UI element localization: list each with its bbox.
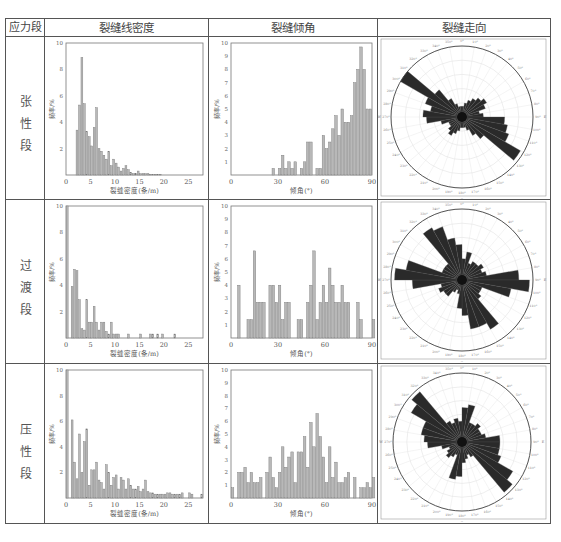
svg-text:10: 10	[111, 341, 119, 349]
svg-text:6: 6	[60, 418, 64, 424]
svg-text:120°: 120°	[522, 477, 530, 481]
header-stress-segment: 应力段	[6, 19, 44, 37]
svg-text:140°: 140°	[507, 173, 515, 177]
svg-text:340°: 340°	[433, 371, 441, 375]
svg-text:330°: 330°	[420, 212, 428, 216]
svg-text:260°: 260°	[385, 453, 393, 457]
dip-histogram-tension: 030609012345678910倾角(°)频率/%	[209, 37, 377, 199]
svg-text:20°: 20°	[485, 44, 491, 48]
svg-text:200°: 200°	[432, 350, 440, 354]
svg-text:140°: 140°	[506, 497, 514, 501]
svg-text:E: E	[544, 278, 547, 282]
svg-text:S: S	[461, 521, 464, 522]
svg-text:10: 10	[221, 40, 228, 46]
svg-text:270°: 270°	[382, 115, 390, 119]
svg-text:25: 25	[184, 501, 192, 509]
row-label-char: 段	[6, 135, 45, 157]
svg-text:220°: 220°	[409, 336, 417, 340]
svg-text:240°: 240°	[392, 153, 400, 157]
header-fracture-strike: 裂缝走向	[378, 19, 550, 37]
svg-text:50°: 50°	[517, 66, 523, 70]
svg-text:2: 2	[225, 146, 229, 152]
svg-text:160°: 160°	[483, 510, 491, 514]
svg-text:210°: 210°	[421, 504, 429, 508]
svg-text:300°: 300°	[392, 240, 400, 244]
density-histogram-compression: 0510152025246810裂缝密度(条/m)频率/%	[44, 364, 208, 522]
svg-text:2: 2	[60, 146, 64, 152]
svg-text:40°: 40°	[507, 384, 513, 388]
row-label-char: 性	[6, 113, 45, 135]
svg-text:190°: 190°	[445, 353, 453, 357]
svg-text:260°: 260°	[383, 128, 391, 132]
svg-text:60°: 60°	[523, 403, 529, 407]
svg-text:250°: 250°	[387, 304, 395, 308]
svg-text:50°: 50°	[517, 229, 523, 233]
svg-text:4: 4	[60, 119, 64, 125]
svg-text:2: 2	[60, 309, 64, 315]
svg-text:E: E	[544, 115, 547, 119]
density-histogram-tension: 0510152025246810裂缝密度(条/m)频率/%	[44, 37, 208, 199]
svg-text:260°: 260°	[383, 291, 391, 295]
svg-text:250°: 250°	[389, 466, 397, 470]
svg-text:5: 5	[225, 106, 229, 112]
svg-text:8: 8	[225, 393, 229, 399]
svg-text:80°: 80°	[532, 427, 538, 431]
svg-text:190°: 190°	[445, 190, 453, 194]
svg-text:290°: 290°	[387, 89, 395, 93]
svg-text:0°: 0°	[460, 202, 464, 206]
svg-text:裂缝密度(条/m): 裂缝密度(条/m)	[110, 349, 159, 358]
svg-text:210°: 210°	[420, 181, 428, 185]
svg-text:15: 15	[135, 501, 143, 509]
svg-text:160°: 160°	[484, 350, 492, 354]
svg-text:350°: 350°	[445, 367, 453, 371]
svg-text:290°: 290°	[389, 415, 397, 419]
svg-text:150°: 150°	[495, 504, 503, 508]
svg-text:90°: 90°	[535, 115, 541, 119]
svg-text:320°: 320°	[409, 220, 417, 224]
svg-text:4: 4	[225, 282, 229, 288]
svg-text:10: 10	[111, 501, 119, 509]
svg-text:10°: 10°	[472, 367, 478, 371]
svg-text:270°: 270°	[384, 440, 392, 444]
svg-text:20: 20	[160, 501, 168, 509]
svg-text:170°: 170°	[471, 190, 479, 194]
svg-text:70°: 70°	[529, 415, 535, 419]
svg-text:20°: 20°	[485, 207, 491, 211]
svg-text:60: 60	[321, 501, 329, 509]
svg-text:7: 7	[225, 243, 229, 249]
svg-text:0: 0	[229, 501, 233, 509]
svg-text:9: 9	[225, 216, 229, 222]
svg-text:8: 8	[60, 229, 64, 235]
rose-diagram-compression: 0°10°20°30°40°50°60°70°80°90°100°110°120…	[378, 364, 550, 522]
svg-text:频率/%: 频率/%	[48, 424, 56, 444]
svg-text:280°: 280°	[383, 265, 391, 269]
svg-text:230°: 230°	[401, 488, 409, 492]
svg-text:70°: 70°	[531, 252, 537, 256]
row-label-compression: 压 性 段	[6, 419, 45, 485]
row-label-char: 压	[6, 419, 45, 441]
svg-text:0: 0	[64, 341, 68, 349]
svg-text:340°: 340°	[432, 44, 440, 48]
svg-text:4: 4	[60, 282, 64, 288]
svg-text:320°: 320°	[409, 57, 417, 61]
svg-text:150°: 150°	[496, 344, 504, 348]
svg-text:130°: 130°	[516, 327, 524, 331]
svg-text:频率/%: 频率/%	[48, 262, 56, 282]
svg-text:25: 25	[184, 341, 192, 349]
svg-text:50°: 50°	[516, 393, 522, 397]
svg-text:170°: 170°	[471, 353, 479, 357]
header-fracture-density: 裂缝线密度	[45, 19, 208, 37]
svg-text:W: W	[378, 278, 381, 282]
svg-text:4: 4	[60, 444, 64, 450]
svg-text:100°: 100°	[531, 453, 539, 457]
svg-text:倾角(°): 倾角(°)	[290, 509, 313, 518]
svg-text:2: 2	[60, 469, 64, 475]
svg-text:180°: 180°	[458, 514, 466, 518]
row-label-char: 渡	[6, 277, 45, 299]
svg-text:0: 0	[229, 178, 233, 186]
svg-text:倾角(°): 倾角(°)	[290, 349, 313, 358]
svg-text:30: 30	[274, 341, 282, 349]
svg-text:350°: 350°	[445, 203, 453, 207]
svg-text:20: 20	[160, 341, 168, 349]
svg-text:W: W	[378, 115, 381, 119]
